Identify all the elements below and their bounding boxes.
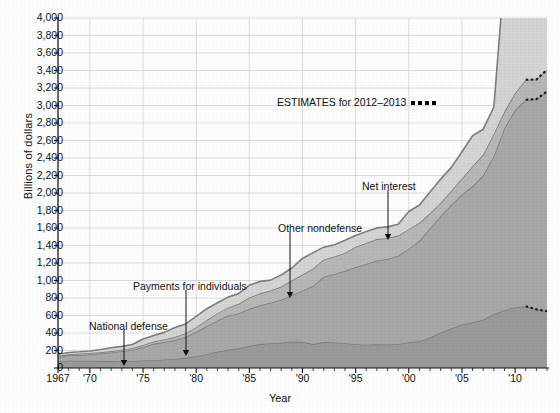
series-annotation-label: National defense xyxy=(89,320,168,332)
y-tick-label: 1,000 xyxy=(15,275,63,285)
y-tick-label: 0 xyxy=(15,362,63,372)
y-tick-label: 3,400 xyxy=(15,65,63,75)
y-tick-label: 200 xyxy=(15,345,63,355)
x-tick-label: '00 xyxy=(402,372,416,384)
y-tick-label: 4,000 xyxy=(15,12,63,22)
x-tick-label: 1967 xyxy=(46,372,69,384)
x-tick-label: '85 xyxy=(243,372,257,384)
x-tick-label: '10 xyxy=(508,372,522,384)
y-tick-label: 600 xyxy=(15,310,63,320)
estimates-note: ESTIMATES for 2012–2013 xyxy=(277,96,437,108)
x-tick-label: '90 xyxy=(296,372,310,384)
y-tick-label: 1,400 xyxy=(15,240,63,250)
estimates-dot-key xyxy=(411,101,437,105)
y-tick-label: 3,800 xyxy=(15,30,63,40)
series-annotation-label: Other nondefense xyxy=(278,222,362,234)
x-tick-label: '70 xyxy=(83,372,97,384)
y-tick-label: 3,600 xyxy=(15,47,63,57)
y-axis-title: Billions of dollars xyxy=(22,76,34,236)
x-axis-title: Year xyxy=(0,392,560,404)
series-annotation-label: Net interest xyxy=(362,180,416,192)
x-tick-label: '95 xyxy=(349,372,363,384)
estimates-note-text: ESTIMATES for 2012–2013 xyxy=(277,96,406,108)
series-annotation-label: Payments for individuals xyxy=(133,280,247,292)
y-tick-label: 400 xyxy=(15,327,63,337)
chart-root: 4,0003,8003,6003,4003,2003,0002,8002,600… xyxy=(0,0,560,413)
stacked-area-chart xyxy=(0,0,560,413)
x-tick-label: '75 xyxy=(136,372,150,384)
y-tick-label: 1,200 xyxy=(15,257,63,267)
x-tick-label: '05 xyxy=(455,372,469,384)
x-tick-label: '80 xyxy=(189,372,203,384)
y-tick-label: 800 xyxy=(15,292,63,302)
